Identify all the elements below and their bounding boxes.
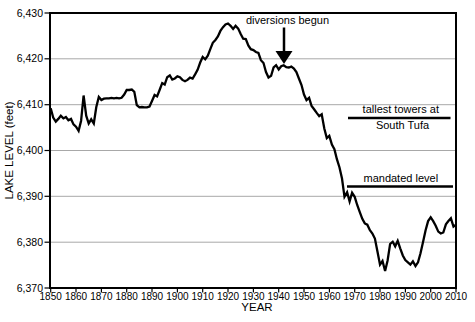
y-tick-label-6380: 6,380 [17,236,43,248]
x-tick-label-1950: 1950 [293,291,316,302]
x-tick-label-1990: 1990 [394,291,417,302]
y-axis-labels: 6,430 6,420 6,410 6,400 6,390 6,380 6,37… [17,7,43,294]
x-tick-label-1900: 1900 [166,291,189,302]
x-tick-label-1940: 1940 [268,291,291,302]
south-tufa-label-line2: South Tufa [376,119,430,131]
x-tick-label-1860: 1860 [65,291,88,302]
x-tick-label-1910: 1910 [192,291,215,302]
diversions-begun-label: diversions begun [246,14,329,26]
x-tick-label-1890: 1890 [141,291,164,302]
y-tick-label-6400: 6,400 [17,144,43,156]
x-axis-title: YEAR [241,301,272,313]
y-tick-label-6420: 6,420 [17,52,43,64]
horizontal-gridlines [50,59,456,242]
x-tick-label-1980: 1980 [369,291,392,302]
chart-canvas: 6,430 6,420 6,410 6,400 6,390 6,380 6,37… [0,0,475,322]
x-tick-label-1930: 1930 [242,291,265,302]
x-tick-label-2010: 2010 [445,291,468,302]
x-tick-label-1960: 1960 [318,291,341,302]
x-axis-labels: 1850 1860 1870 1880 1890 1900 1910 1920 … [40,291,468,302]
x-tick-label-1870: 1870 [90,291,113,302]
x-tick-label-1850: 1850 [40,291,63,302]
mandated-level-label: mandated level [363,172,438,184]
x-tick-label-1880: 1880 [116,291,139,302]
x-tick-label-1920: 1920 [217,291,240,302]
x-tick-label-1970: 1970 [344,291,367,302]
lake-level-chart: 6,430 6,420 6,410 6,400 6,390 6,380 6,37… [0,0,475,322]
south-tufa-label-line1: tallest towers at [363,103,439,115]
y-axis-title: LAKE LEVEL (feet) [3,101,15,199]
y-tick-label-6410: 6,410 [17,98,43,110]
x-tick-label-2000: 2000 [420,291,443,302]
y-tick-label-6430: 6,430 [17,7,43,19]
down-arrow-icon [276,51,293,64]
lake-level-line [51,24,456,272]
y-tick-label-6390: 6,390 [17,190,43,202]
